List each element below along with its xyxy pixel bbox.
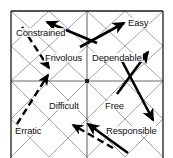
label-responsible: Responsible [105, 126, 158, 135]
label-constrained: Constrained [15, 28, 66, 37]
vector-difficult [17, 75, 48, 124]
label-erratic: Erratic [14, 126, 42, 135]
label-difficult: Difficult [48, 101, 80, 110]
center-node [85, 79, 89, 83]
diagram-canvas: Constrained Easy Frivolous Dependable Di… [0, 0, 173, 158]
label-easy: Easy [127, 18, 149, 27]
label-frivolous: Frivolous [44, 53, 83, 62]
label-free: Free [104, 101, 125, 110]
label-dependable: Dependable [91, 53, 143, 62]
